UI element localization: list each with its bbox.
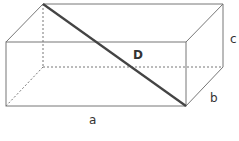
front-face [6,42,186,106]
space-diagonal [43,4,186,106]
label-height: c [230,32,237,46]
edge-top-right-depth [186,4,223,42]
label-length: a [89,113,96,127]
label-diagonal: D [133,48,143,62]
edge-top-left-depth [6,4,43,42]
label-width: b [210,91,218,105]
box-diagram: c D b a [0,0,239,141]
hidden-edge-bottom-left-depth [6,67,43,106]
